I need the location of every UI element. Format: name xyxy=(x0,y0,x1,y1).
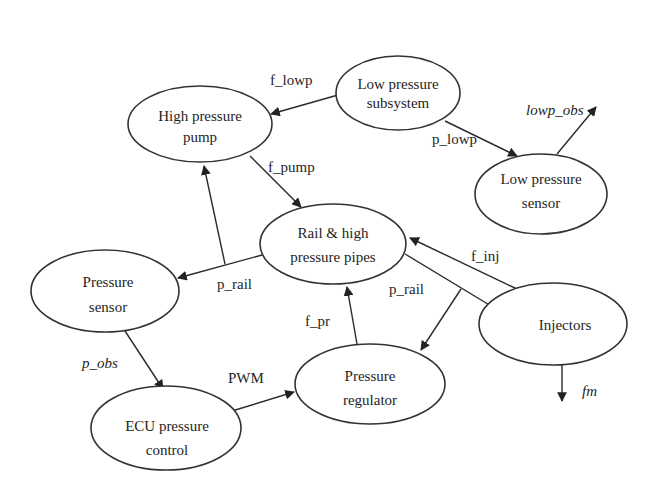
label-f-pump: f_pump xyxy=(268,159,315,175)
node-label: Low pressure xyxy=(357,76,439,92)
node-label: Injectors xyxy=(539,317,592,333)
label-f-lowp: f_lowp xyxy=(270,72,313,88)
node-label: High pressure xyxy=(158,108,242,124)
label-p-lowp: p_lowp xyxy=(432,131,477,147)
edge-p-rail-to-sensor xyxy=(178,255,262,278)
node-label: Pressure xyxy=(83,274,134,290)
node-label: pressure pipes xyxy=(290,249,376,265)
fuel-system-diagram: Low pressure subsystem High pressure pum… xyxy=(0,0,665,497)
edge-f-pr xyxy=(347,287,357,344)
node-label: Pressure xyxy=(345,368,396,384)
node-label: regulator xyxy=(343,392,397,408)
edge-p-obs xyxy=(125,331,163,389)
label-f-inj: f_inj xyxy=(471,248,499,264)
node-label: sensor xyxy=(522,195,560,211)
node-rail-high-pressure-pipes: Rail & high pressure pipes xyxy=(260,204,406,284)
node-label: control xyxy=(146,442,189,458)
edge-p-rail-to-regulator xyxy=(421,289,461,350)
label-fm: fm xyxy=(582,383,597,399)
label-p-obs: p_obs xyxy=(81,355,118,371)
label-p-rail-left: p_rail xyxy=(217,276,252,292)
node-low-pressure-subsystem: Low pressure subsystem xyxy=(336,56,460,130)
label-pwm: PWM xyxy=(228,370,264,386)
edge-f-inj xyxy=(410,238,517,289)
node-injectors: Injectors xyxy=(479,283,627,365)
node-label: sensor xyxy=(89,299,127,315)
label-lowp-obs: lowp_obs xyxy=(526,102,584,118)
node-label: Rail & high xyxy=(298,225,369,241)
node-pressure-sensor: Pressure sensor xyxy=(31,250,179,332)
node-pressure-regulator: Pressure regulator xyxy=(295,344,445,424)
node-label: pump xyxy=(183,129,217,145)
node-label: ECU pressure xyxy=(125,418,209,434)
edge-f-lowp xyxy=(271,95,338,114)
edge-p-rail-to-pump xyxy=(204,166,225,264)
label-p-rail-right: p_rail xyxy=(389,281,424,297)
label-f-pr: f_pr xyxy=(305,313,330,329)
node-label: Low pressure xyxy=(500,171,582,187)
edge-pwm xyxy=(232,392,294,411)
node-label: subsystem xyxy=(367,95,430,111)
node-high-pressure-pump: High pressure pump xyxy=(128,86,272,162)
node-ecu-pressure-control: ECU pressure control xyxy=(91,386,241,470)
node-low-pressure-sensor: Low pressure sensor xyxy=(475,154,607,234)
